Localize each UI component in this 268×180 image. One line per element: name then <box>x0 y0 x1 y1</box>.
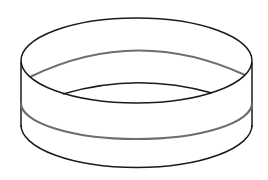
inner-back-arc <box>63 83 212 94</box>
cylinder-drawing <box>0 0 268 180</box>
middle-gray-band <box>21 103 252 139</box>
top-rim-ellipse <box>21 18 252 103</box>
upper-gray-band <box>30 50 245 77</box>
bottom-rim-arc <box>21 125 252 168</box>
cylinder-diagram <box>0 0 268 180</box>
